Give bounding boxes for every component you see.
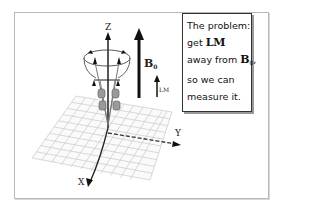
b0-term: B	[240, 53, 249, 66]
b0-label-main: B	[144, 57, 153, 70]
textbox-line-5: measure it.	[187, 88, 251, 105]
textbox-line-3-suffix: ,	[253, 54, 256, 65]
lm-label: LM	[159, 86, 169, 93]
b0-label: B0	[144, 57, 158, 70]
x-axis-label: X	[78, 177, 84, 187]
problem-statement-box: The problem: get LM away from B0, so we …	[182, 13, 252, 112]
z-axis-label: Z	[105, 22, 111, 32]
textbox-line-2-prefix: get	[187, 37, 206, 48]
y-axis-label: Y	[175, 128, 181, 138]
textbox-line-3: away from B0,	[187, 51, 251, 71]
textbox-line-3-prefix: away from	[187, 54, 240, 65]
lm-term: LM	[206, 36, 226, 49]
b0-label-sub: 0	[153, 63, 157, 70]
textbox-line-1: The problem:	[187, 17, 251, 34]
textbox-line-4: so we can	[187, 71, 251, 88]
b0-field-arrow	[134, 28, 144, 98]
spin-vectors	[88, 50, 126, 86]
textbox-line-2: get LM	[187, 34, 251, 51]
